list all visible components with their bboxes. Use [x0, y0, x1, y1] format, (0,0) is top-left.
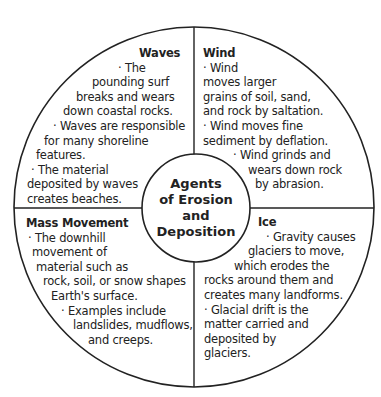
center-title-line: Deposition: [157, 224, 236, 240]
center-title-line: and: [182, 208, 209, 224]
waves-line: pounding surf: [0, 75, 190, 90]
waves-title: Waves: [0, 46, 190, 61]
ice-line: creates many landforms.: [204, 288, 374, 303]
waves-line: · The: [0, 61, 190, 76]
wind-title: Wind: [203, 46, 373, 61]
wind-line: and rock by saltation.: [203, 104, 373, 119]
waves-line: breaks and wears: [0, 90, 190, 105]
mass-movement-line: Earth's surface.: [26, 289, 191, 304]
wind-line: · Wind moves fine: [203, 119, 373, 134]
waves-line: for many shoreline: [0, 134, 190, 149]
wind-line: grains of soil, sand,: [203, 90, 373, 105]
waves-line: · Waves are responsible: [0, 119, 190, 134]
ice-line: matter carried and: [204, 317, 374, 332]
ice-line: rocks around them and: [204, 273, 374, 288]
wind-line: moves larger: [203, 75, 373, 90]
ice-line: · Glacial drift is the: [204, 303, 374, 318]
mass-movement-line: rock, soil, or snow shapes: [26, 274, 191, 289]
ice-line: deposited by: [204, 332, 374, 347]
center-title-line: of Erosion: [159, 192, 233, 208]
mass-movement-line: and creeps.: [26, 333, 191, 348]
ice-line: glaciers.: [204, 346, 374, 361]
wind-line: · Wind: [203, 61, 373, 76]
waves-line: down coastal rocks.: [0, 104, 190, 119]
mass-movement-line: landslides, mudflows,: [26, 318, 191, 333]
wind-line: sediment by deflation.: [203, 134, 373, 149]
center-title: Agents of Erosion and Deposition: [142, 154, 250, 262]
center-title-line: Agents: [170, 176, 221, 192]
mass-movement-line: · Examples include: [26, 304, 191, 319]
